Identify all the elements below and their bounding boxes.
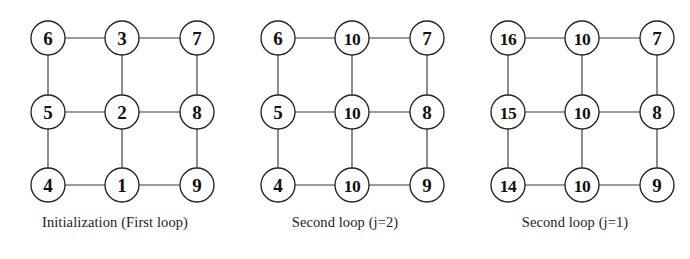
node-label: 9: [192, 175, 202, 196]
graph-node-middle-center: 2: [105, 95, 139, 129]
graph-node-top-right: 7: [640, 21, 674, 55]
graph-node-top-center: 10: [565, 21, 599, 55]
node-label: 6: [273, 28, 283, 49]
node-label: 10: [344, 29, 361, 49]
graph-node-top-center: 10: [335, 21, 369, 55]
node-label: 8: [652, 102, 662, 123]
node-label: 4: [43, 175, 53, 196]
node-label: 9: [422, 175, 432, 196]
node-label: 6: [43, 28, 53, 49]
node-label: 1: [117, 175, 127, 196]
graph-node-middle-center: 10: [565, 95, 599, 129]
node-label: 10: [344, 103, 361, 123]
node-label: 10: [574, 176, 591, 196]
graph-node-middle-right: 8: [180, 95, 214, 129]
graph-canvas: 637528419: [0, 0, 230, 212]
graph-panel-second-loop-j1: 161071510814109 Second loop (j=1): [460, 0, 690, 259]
node-label: 16: [500, 29, 517, 49]
graph-node-bottom-center: 10: [565, 168, 599, 202]
graph-node-bottom-center: 10: [335, 168, 369, 202]
graph-node-bottom-center: 1: [105, 168, 139, 202]
graph-node-top-left: 16: [491, 21, 525, 55]
graph-node-middle-left: 15: [491, 95, 525, 129]
node-label: 2: [117, 102, 127, 123]
graph-node-top-left: 6: [31, 21, 65, 55]
graph-panel-initialization: 637528419 Initialization (First loop): [0, 0, 230, 259]
node-label: 10: [574, 103, 591, 123]
graph-node-bottom-left: 4: [261, 168, 295, 202]
graph-node-middle-right: 8: [410, 95, 444, 129]
node-label: 15: [500, 103, 517, 123]
node-label: 10: [344, 176, 361, 196]
graph-node-top-right: 7: [180, 21, 214, 55]
grid-graph: 637528419: [0, 0, 230, 212]
graph-node-bottom-right: 9: [180, 168, 214, 202]
graph-canvas: 161071510814109: [460, 0, 690, 212]
graph-node-bottom-right: 9: [640, 168, 674, 202]
grid-graph: 161071510814109: [460, 0, 690, 212]
graph-node-top-center: 3: [105, 21, 139, 55]
graph-node-bottom-left: 14: [491, 168, 525, 202]
graph-canvas: 610751084109: [230, 0, 460, 212]
node-label: 8: [422, 102, 432, 123]
node-label: 5: [43, 102, 53, 123]
graph-panel-second-loop-j2: 610751084109 Second loop (j=2): [230, 0, 460, 259]
figure-root: 637528419 Initialization (First loop) 61…: [0, 0, 690, 259]
graph-node-bottom-left: 4: [31, 168, 65, 202]
graph-node-middle-center: 10: [335, 95, 369, 129]
graph-node-top-left: 6: [261, 21, 295, 55]
node-label: 4: [273, 175, 283, 196]
graph-node-bottom-right: 9: [410, 168, 444, 202]
graph-node-middle-left: 5: [31, 95, 65, 129]
node-label: 14: [500, 176, 517, 196]
node-label: 8: [192, 102, 202, 123]
node-label: 5: [273, 102, 283, 123]
graph-node-middle-left: 5: [261, 95, 295, 129]
node-label: 7: [422, 28, 432, 49]
node-label: 9: [652, 175, 662, 196]
panel-caption: Initialization (First loop): [0, 214, 230, 231]
panel-caption: Second loop (j=1): [460, 214, 690, 231]
node-label: 3: [117, 28, 127, 49]
node-label: 10: [574, 29, 591, 49]
grid-graph: 610751084109: [230, 0, 460, 212]
graph-node-top-right: 7: [410, 21, 444, 55]
graph-node-middle-right: 8: [640, 95, 674, 129]
panel-caption: Second loop (j=2): [230, 214, 460, 231]
node-label: 7: [652, 28, 662, 49]
node-label: 7: [192, 28, 202, 49]
